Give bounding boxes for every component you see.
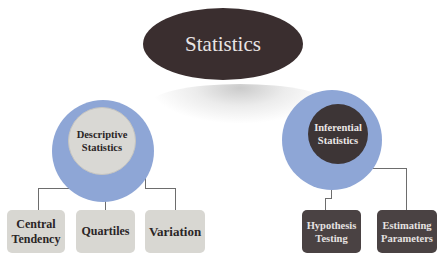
root-node-statistics: Statistics <box>143 8 303 80</box>
node-label-line2: Statistics <box>314 134 362 147</box>
connector <box>38 188 69 189</box>
leaf-hypothesis-testing: Hypothesis Testing <box>302 210 361 253</box>
leaf-quartiles: Quartiles <box>76 210 135 253</box>
node-label-line2: Statistics <box>77 141 128 154</box>
leaf-estimating-parameters: Estimating Parameters <box>377 210 437 253</box>
leaf-label-line1: Hypothesis <box>307 219 357 232</box>
node-descriptive-statistics: Descriptive Statistics <box>68 107 136 175</box>
leaf-label-line1: Central <box>12 217 61 232</box>
connector <box>175 188 176 210</box>
leaf-label-line2: Parameters <box>381 232 433 245</box>
leaf-variation: Variation <box>145 210 205 253</box>
leaf-label: Variation <box>149 224 201 239</box>
leaf-label: Quartiles <box>82 224 130 239</box>
connector <box>145 188 176 189</box>
connector <box>325 198 332 199</box>
connector <box>38 188 39 210</box>
node-inferential-statistics: Inferential Statistics <box>308 104 368 164</box>
connector <box>370 168 407 169</box>
leaf-central-tendency: Central Tendency <box>7 210 65 253</box>
leaf-label-line1: Estimating <box>381 219 433 232</box>
node-label-line1: Descriptive <box>77 128 128 141</box>
connector <box>325 198 326 210</box>
root-node-label: Statistics <box>185 32 261 57</box>
leaf-label-line2: Tendency <box>12 232 61 247</box>
leaf-label-line2: Testing <box>307 232 357 245</box>
node-label-line1: Inferential <box>314 121 362 134</box>
connector <box>406 168 407 210</box>
